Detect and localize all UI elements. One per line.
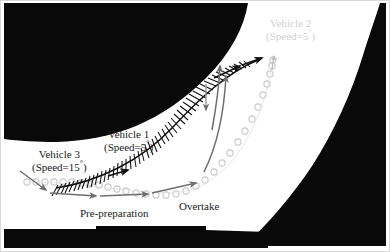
trajectory-canvas	[0, 0, 390, 252]
trajectory-figure: Vehicle 1 (Speed=5°) Vehicle 2 (Speed=5°…	[0, 0, 390, 252]
